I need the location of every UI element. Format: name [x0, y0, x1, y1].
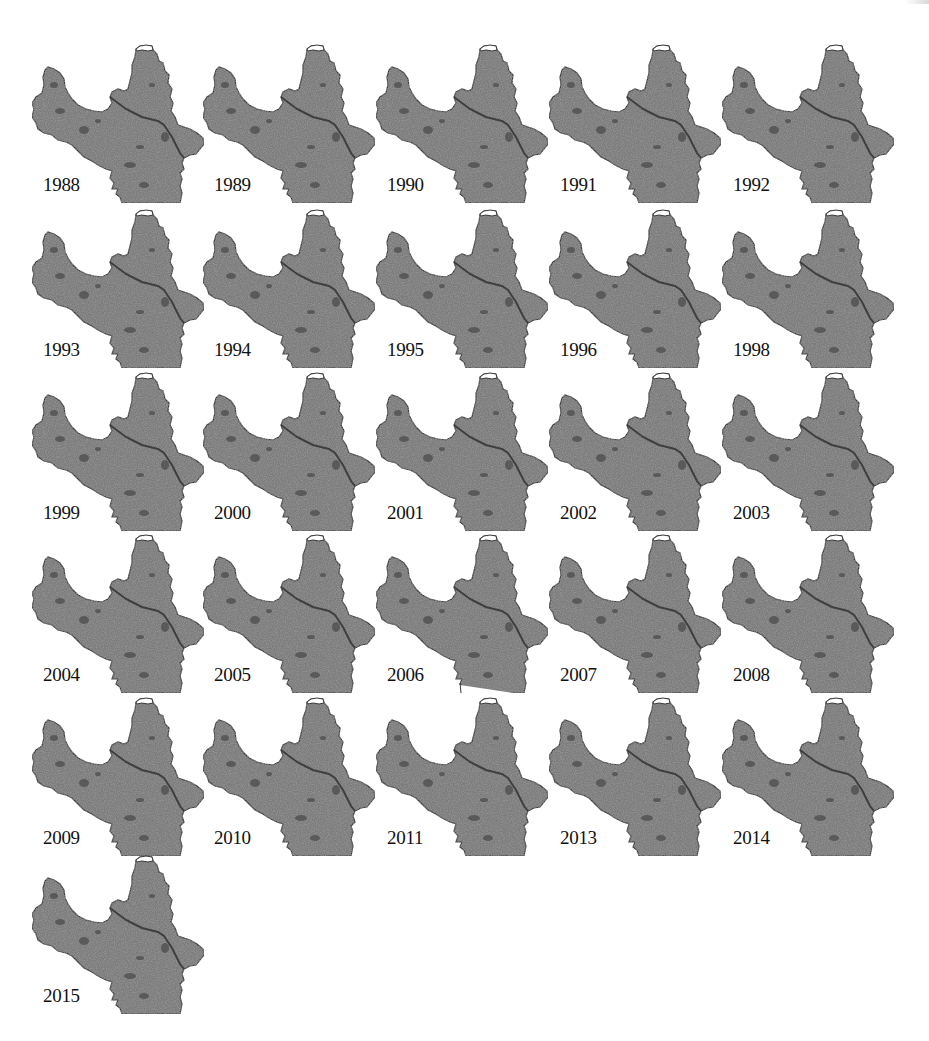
map-panel-2010: 2010 [203, 698, 383, 863]
year-label: 1993 [43, 340, 80, 359]
north-cap [826, 535, 843, 541]
north-cap [136, 535, 153, 541]
year-label: 1996 [560, 340, 597, 359]
year-label: 2009 [43, 828, 80, 847]
north-cap [307, 45, 324, 51]
map-panel-1992: 1992 [722, 45, 902, 210]
north-cap [480, 45, 497, 51]
year-label: 1988 [43, 175, 80, 194]
year-label: 2003 [733, 503, 770, 522]
north-cap [480, 698, 497, 704]
map-panel-2001: 2001 [376, 373, 556, 538]
year-label: 2015 [43, 986, 80, 1005]
year-label: 1995 [387, 340, 424, 359]
map-panel-1999: 1999 [32, 373, 212, 538]
map-panel-2011: 2011 [376, 698, 556, 863]
map-panel-2013: 2013 [549, 698, 729, 863]
map-panel-1993: 1993 [32, 210, 212, 375]
year-label: 2002 [560, 503, 597, 522]
north-cap [136, 210, 153, 216]
north-cap [307, 373, 324, 379]
map-panel-2002: 2002 [549, 373, 729, 538]
map-panel-2009: 2009 [32, 698, 212, 863]
year-label: 1989 [214, 175, 251, 194]
map-panel-1989: 1989 [203, 45, 383, 210]
year-label: 2011 [387, 828, 423, 847]
year-label: 2000 [214, 503, 251, 522]
north-cap [653, 45, 670, 51]
north-cap [653, 373, 670, 379]
year-label: 2004 [43, 665, 80, 684]
year-label: 2013 [560, 828, 597, 847]
year-label: 2006 [387, 665, 424, 684]
north-cap [480, 210, 497, 216]
map-panel-1996: 1996 [549, 210, 729, 375]
north-cap [307, 698, 324, 704]
map-panel-2000: 2000 [203, 373, 383, 538]
north-cap [826, 373, 843, 379]
north-cap [136, 856, 153, 862]
north-cap [136, 373, 153, 379]
map-panel-1991: 1991 [549, 45, 729, 210]
map-panel-2006: 2006 [376, 535, 556, 700]
north-cap [136, 45, 153, 51]
north-cap [653, 535, 670, 541]
cropped-page-mark [905, 0, 929, 4]
year-label: 1999 [43, 503, 80, 522]
north-cap [136, 698, 153, 704]
year-label: 1990 [387, 175, 424, 194]
map-panel-2007: 2007 [549, 535, 729, 700]
year-label: 2001 [387, 503, 424, 522]
year-label: 2010 [214, 828, 251, 847]
map-panel-2014: 2014 [722, 698, 902, 863]
north-cap [826, 210, 843, 216]
map-panel-2003: 2003 [722, 373, 902, 538]
map-panel-1994: 1994 [203, 210, 383, 375]
year-label: 1992 [733, 175, 770, 194]
north-cap [307, 535, 324, 541]
north-cap [653, 698, 670, 704]
map-panel-2015: 2015 [32, 856, 212, 1021]
north-cap [480, 373, 497, 379]
map-panel-1990: 1990 [376, 45, 556, 210]
north-cap [307, 210, 324, 216]
year-label: 2007 [560, 665, 597, 684]
year-label: 1998 [733, 340, 770, 359]
year-label: 2014 [733, 828, 770, 847]
north-cap [480, 535, 497, 541]
map-panel-2005: 2005 [203, 535, 383, 700]
map-panel-1988: 1988 [32, 45, 212, 210]
year-label: 2008 [733, 665, 770, 684]
map-panel-2008: 2008 [722, 535, 902, 700]
year-label: 1994 [214, 340, 251, 359]
year-label: 2005 [214, 665, 251, 684]
map-panel-2004: 2004 [32, 535, 212, 700]
map-panel-1995: 1995 [376, 210, 556, 375]
north-cap [826, 45, 843, 51]
map-panel-1998: 1998 [722, 210, 902, 375]
north-cap [653, 210, 670, 216]
year-label: 1991 [560, 175, 597, 194]
north-cap [826, 698, 843, 704]
